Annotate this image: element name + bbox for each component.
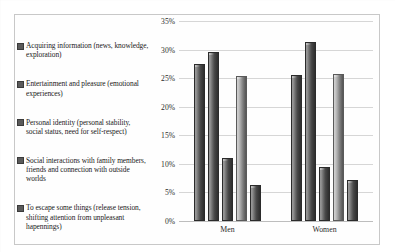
plot-region: 35%30%25%20%15%10%5%0% MenWomen: [151, 21, 375, 240]
legend-item[interactable]: Social interactions with family members,…: [17, 156, 149, 184]
bar[interactable]: [291, 75, 302, 221]
x-axis: MenWomen: [179, 225, 373, 234]
bar[interactable]: [250, 185, 261, 221]
y-axis-tick-label: 35%: [161, 17, 175, 26]
legend-swatch-icon: [17, 157, 24, 164]
y-axis-tick-label: 25%: [161, 74, 175, 83]
plot-area: [179, 21, 373, 221]
legend-item-label: Personal identity (personal stability, s…: [26, 118, 149, 136]
legend-item[interactable]: Entertainment and pleasure (emotional ex…: [17, 79, 149, 97]
legend-item[interactable]: Personal identity (personal stability, s…: [17, 118, 149, 136]
y-axis-tick-label: 0%: [165, 217, 175, 226]
legend-swatch-icon: [17, 119, 24, 126]
bar[interactable]: [305, 42, 316, 221]
bar[interactable]: [222, 158, 233, 221]
y-axis-tick-label: 30%: [161, 45, 175, 54]
legend-swatch-icon: [17, 205, 24, 212]
bars-layer: [179, 21, 373, 221]
y-axis-tick-label: 20%: [161, 102, 175, 111]
chart-legend: Acquiring information (news, knowledge, …: [17, 41, 149, 231]
y-axis-tick-label: 5%: [165, 188, 175, 197]
bar[interactable]: [347, 180, 358, 221]
x-axis-category-label: Women: [276, 225, 373, 234]
legend-item-label: Acquiring information (news, knowledge, …: [26, 41, 149, 59]
legend-item-label: Social interactions with family members,…: [26, 156, 149, 184]
legend-swatch-icon: [17, 43, 24, 50]
bar-group-men: [179, 21, 276, 221]
legend-item-label: Entertainment and pleasure (emotional ex…: [26, 79, 149, 97]
legend-item-label: To escape some things (release tension, …: [26, 203, 149, 231]
x-axis-category-label: Men: [179, 225, 276, 234]
legend-swatch-icon: [17, 81, 24, 88]
bar[interactable]: [236, 76, 247, 221]
bar[interactable]: [208, 52, 219, 221]
bar[interactable]: [333, 74, 344, 221]
y-axis-tick-label: 15%: [161, 131, 175, 140]
bar[interactable]: [319, 167, 330, 221]
legend-item[interactable]: Acquiring information (news, knowledge, …: [17, 41, 149, 59]
chart-frame: Acquiring information (news, knowledge, …: [14, 14, 380, 245]
bar-group-women: [276, 21, 373, 221]
axis-baseline: [179, 221, 373, 222]
legend-item[interactable]: To escape some things (release tension, …: [17, 203, 149, 231]
y-axis-tick-label: 10%: [161, 159, 175, 168]
y-axis: 35%30%25%20%15%10%5%0%: [151, 21, 177, 221]
bar[interactable]: [194, 64, 205, 221]
